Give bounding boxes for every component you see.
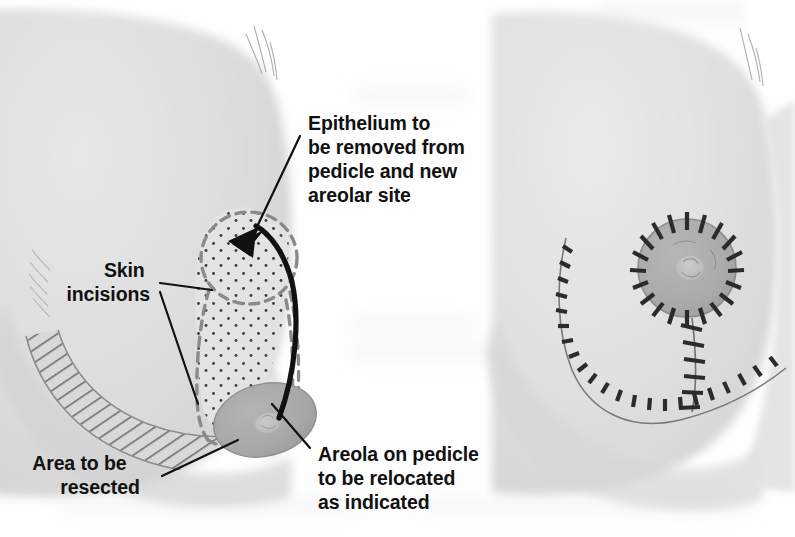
illustration-canvas: Epithelium to be removed from pedicle an… (0, 0, 795, 537)
right-areola (638, 219, 736, 317)
surgical-illustration-figure: Epithelium to be removed from pedicle an… (0, 0, 795, 537)
